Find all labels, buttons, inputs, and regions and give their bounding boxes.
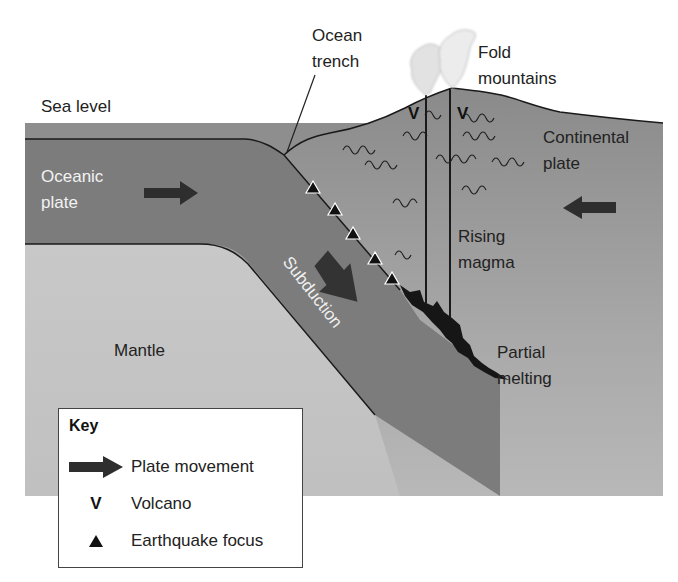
oceanic-plate-label-line1: Oceanic bbox=[41, 167, 103, 187]
volcano-mark-left: V bbox=[408, 104, 419, 124]
legend-label: Plate movement bbox=[131, 457, 254, 477]
fold-mountains-label-line2: mountains bbox=[478, 69, 556, 89]
volcano-mark-right: V bbox=[457, 104, 468, 124]
volcano-icon: V bbox=[67, 492, 125, 516]
legend-label: Volcano bbox=[131, 494, 192, 514]
legend-label: Earthquake focus bbox=[131, 531, 263, 551]
sea-level-label: Sea level bbox=[41, 97, 111, 117]
legend-item-earthquake-focus: Earthquake focus bbox=[59, 529, 302, 553]
plate-movement-arrow-icon bbox=[67, 455, 125, 479]
rising-magma-label-line2: magma bbox=[458, 253, 515, 273]
partial-melting-label-line2: melting bbox=[497, 369, 552, 389]
legend-item-plate-movement: Plate movement bbox=[59, 455, 302, 479]
ocean-trench-label-line2: trench bbox=[312, 52, 359, 72]
legend-item-volcano: V Volcano bbox=[59, 492, 302, 516]
earthquake-focus-icon bbox=[67, 529, 125, 553]
oceanic-plate-label-line2: plate bbox=[41, 193, 78, 213]
rising-magma-label-line1: Rising bbox=[458, 227, 505, 247]
ocean-trench-label-line1: Ocean bbox=[312, 26, 362, 46]
continental-plate-label-line2: plate bbox=[543, 154, 580, 174]
subduction-diagram: Subduction Sea level Ocean trench Fold m… bbox=[0, 0, 678, 582]
ash-cloud-icon bbox=[411, 30, 476, 95]
partial-melting-label-line1: Partial bbox=[497, 343, 545, 363]
continental-plate-label-line1: Continental bbox=[543, 128, 629, 148]
legend-title: Key bbox=[69, 417, 98, 435]
fold-mountains-label-line1: Fold bbox=[478, 43, 511, 63]
mantle-label: Mantle bbox=[114, 341, 165, 361]
legend-key: Key Plate movement V Volcano Earthquake … bbox=[58, 408, 303, 568]
